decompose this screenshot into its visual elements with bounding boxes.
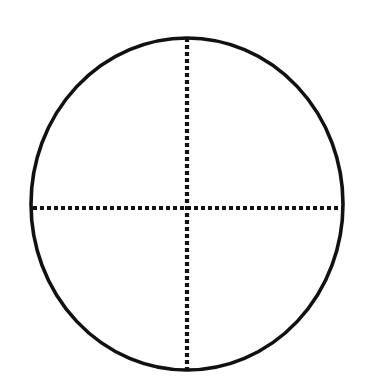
figure-canvas xyxy=(0,0,368,390)
circle-quadrant-diagram xyxy=(0,0,368,390)
background-rect xyxy=(0,0,368,390)
